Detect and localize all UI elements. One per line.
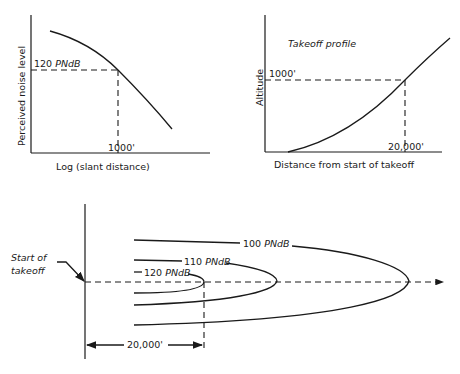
- y-axis-label: Perceived noise level: [16, 46, 27, 146]
- profile-curve: [288, 38, 450, 152]
- contour-110-top-left: [134, 260, 182, 261]
- distance-label: 20,000': [388, 141, 424, 152]
- contour-100-top-left: [134, 240, 240, 243]
- x-axis-label: Log (slant distance): [56, 161, 150, 172]
- x-axis-label: Distance from start of takeoff: [274, 159, 414, 170]
- noise-contours-plan: 100 PNdB 110 PNdB 120 PNdB Start of take…: [11, 204, 443, 359]
- takeoff-profile-chart: Takeoff profile Altitude Distance from s…: [254, 15, 450, 170]
- noise-contour-diagram: Perceived noise level Log (slant distanc…: [0, 0, 460, 374]
- altitude-label: 1000': [269, 68, 296, 79]
- distance-label: 1000': [108, 142, 135, 153]
- dimension-label: 20,000': [127, 339, 163, 350]
- start-leader-arrow: [57, 262, 84, 281]
- contour-100: [134, 246, 409, 325]
- contour-100-label: 100 PNdB: [243, 238, 290, 249]
- contour-110-label: 110 PNdB: [184, 256, 231, 267]
- noise-vs-distance-chart: Perceived noise level Log (slant distanc…: [16, 15, 210, 172]
- start-label-line1: Start of: [11, 252, 48, 263]
- level-label: 120 PNdB: [34, 58, 81, 69]
- contour-120-label: 120 PNdB: [144, 267, 191, 278]
- y-axis-label: Altitude: [254, 69, 265, 106]
- start-label-line2: takeoff: [11, 265, 46, 276]
- noise-curve: [50, 31, 172, 129]
- chart-title: Takeoff profile: [288, 38, 356, 49]
